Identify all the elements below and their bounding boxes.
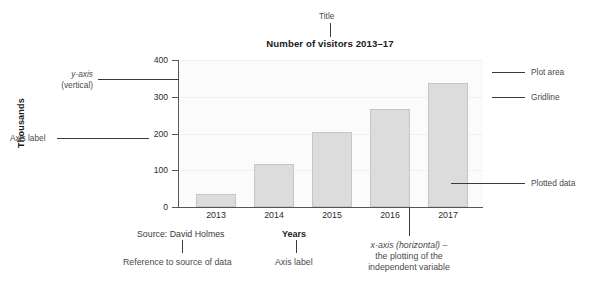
bar-2016 <box>370 109 410 207</box>
y-tick-100 <box>172 170 178 171</box>
annotation-title-leader <box>330 23 331 37</box>
y-axis-title: Thousands <box>16 88 26 158</box>
annotation-y-axis-line1: y-axis <box>71 69 93 79</box>
y-tick-300 <box>172 97 178 98</box>
annotation-plotted-data-label: Plotted data <box>531 178 575 189</box>
y-tick-400 <box>172 60 178 61</box>
y-tick-label-300: 300 <box>138 92 168 102</box>
chart-title: Number of visitors 2013–17 <box>180 38 480 49</box>
annotation-x-axis-title-label: Axis label <box>275 257 313 268</box>
bar-2014 <box>254 164 294 207</box>
annotation-gridline-label: Gridline <box>531 92 560 103</box>
annotation-y-axis-leader <box>98 79 179 80</box>
bar-2013 <box>196 194 236 207</box>
bar-2017 <box>428 83 468 207</box>
y-tick-0 <box>172 207 178 208</box>
annotation-plot-area-leader <box>492 72 525 73</box>
x-tick-label-2016: 2016 <box>370 210 410 220</box>
annotation-title-label: Title <box>319 11 334 22</box>
annotation-source-leader <box>182 240 183 253</box>
bar-chart: 400 300 200 100 0 Thousands 2013 2014 20… <box>0 0 595 285</box>
x-axis-line <box>178 207 483 208</box>
x-tick-label-2015: 2015 <box>312 210 352 220</box>
annotation-gridline-leader <box>492 97 525 98</box>
chart-source: Source: David Holmes <box>137 229 225 240</box>
annotation-y-axis-title-leader <box>57 138 149 139</box>
x-tick-label-2013: 2013 <box>196 210 236 220</box>
annotation-plot-area-label: Plot area <box>531 67 564 78</box>
gridline-400 <box>178 60 483 61</box>
x-axis-title: Years <box>282 229 306 240</box>
y-tick-label-400: 400 <box>138 55 168 65</box>
annotation-x-axis-title-leader <box>296 240 297 253</box>
y-tick-label-100: 100 <box>138 165 168 175</box>
annotation-x-axis-desc-line1: x-axis (horizontal) – <box>371 240 448 250</box>
annotation-x-axis-desc-label: x-axis (horizontal) – the plotting of th… <box>341 240 477 273</box>
annotation-y-axis-line2: (vertical) <box>61 80 93 90</box>
annotated-chart-diagram: 400 300 200 100 0 Thousands 2013 2014 20… <box>0 0 595 285</box>
y-tick-label-200: 200 <box>138 129 168 139</box>
annotation-y-axis-label: y-axis (vertical) <box>27 69 93 90</box>
y-tick-label-0: 0 <box>138 202 168 212</box>
annotation-x-axis-desc-line2: the plotting of the <box>375 251 443 261</box>
annotation-plotted-data-leader <box>451 183 525 184</box>
annotation-x-axis-desc-leader <box>409 208 410 236</box>
annotation-x-axis-desc-line3: independent variable <box>368 262 450 272</box>
y-axis-line <box>178 60 179 207</box>
bar-2015 <box>312 132 352 207</box>
x-tick-label-2014: 2014 <box>254 210 294 220</box>
y-tick-200 <box>172 134 178 135</box>
x-tick-label-2017: 2017 <box>428 210 468 220</box>
annotation-y-axis-title-label: Axis label <box>10 133 46 144</box>
annotation-source-reference-label: Reference to source of data <box>123 257 232 268</box>
